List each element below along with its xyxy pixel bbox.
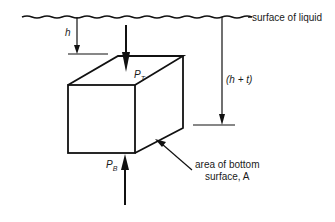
h-arrowhead-icon xyxy=(74,45,80,54)
top-force-label: PT xyxy=(134,69,146,82)
bottom-force-arrowhead-icon xyxy=(121,154,129,170)
h-label: h xyxy=(65,27,71,38)
liquid-surface-line xyxy=(22,16,252,18)
h-plus-t-label: (h + t) xyxy=(226,74,252,85)
buoyancy-diagram: surface of liquid h (h + t) PT PB area o… xyxy=(0,0,335,222)
area-label-line1: area of bottom xyxy=(195,159,259,170)
h-plus-t-arrowhead-icon xyxy=(219,114,225,125)
area-label-line2: surface, A xyxy=(205,171,250,182)
submerged-block xyxy=(68,56,183,153)
top-force-arrowhead-icon xyxy=(122,52,130,72)
bottom-force-label: PB xyxy=(106,159,118,172)
surface-label: surface of liquid xyxy=(252,12,322,23)
area-pointer-line xyxy=(162,144,192,170)
